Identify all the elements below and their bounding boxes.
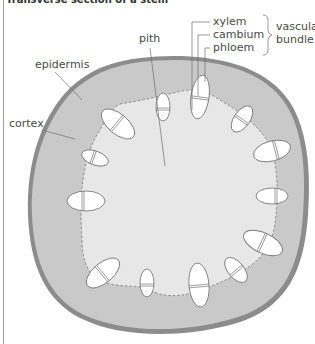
vascular-bundle-label-line2: bundle: [276, 33, 314, 46]
cortex-label: cortex: [9, 117, 44, 130]
epidermis-label: epidermis: [35, 58, 89, 71]
xylem-label: xylem: [213, 15, 247, 28]
stem-cross-section: [0, 0, 315, 344]
diagram-canvas: Transverse section of a stem: [0, 0, 315, 344]
cambium-label: cambium: [213, 28, 264, 41]
phloem-label: phloem: [213, 41, 254, 54]
vascular-bundle-label-line1: vascular: [276, 20, 315, 33]
group-brace: [263, 15, 272, 55]
pith-label: pith: [139, 32, 160, 45]
